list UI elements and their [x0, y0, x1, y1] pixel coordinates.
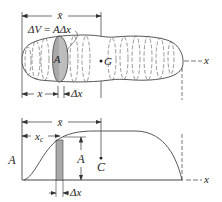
- x-dim-label: x: [37, 87, 43, 99]
- centroid-diagram: x̄ A ΔV = AΔx G: [0, 0, 222, 202]
- axis-x-label-top: x: [203, 54, 209, 66]
- dx-dim-label-bottom: Δx: [69, 186, 81, 198]
- xbar-label: x̄: [57, 9, 63, 21]
- area-bar: [56, 140, 63, 180]
- centroid-g-label: G: [104, 55, 112, 67]
- slice-area-label: A: [53, 53, 61, 65]
- bar-height-label: A: [76, 152, 85, 166]
- body-outline: [22, 35, 183, 82]
- xbar-label-bottom: x̄: [57, 116, 63, 128]
- top-figure: x̄ A ΔV = AΔx G: [22, 9, 209, 100]
- dv-label: ΔV = AΔx: [27, 23, 71, 35]
- axis-x-label-bottom: x: [203, 173, 209, 185]
- centroid-c-label: C: [97, 160, 106, 174]
- dx-dim-label-top: Δx: [70, 87, 82, 99]
- centroid-g-point: [100, 60, 103, 63]
- y-axis-label: A: [7, 153, 16, 167]
- xc-label: xc: [34, 130, 44, 144]
- bottom-figure: x̄ xc A x A C Δx: [7, 116, 209, 198]
